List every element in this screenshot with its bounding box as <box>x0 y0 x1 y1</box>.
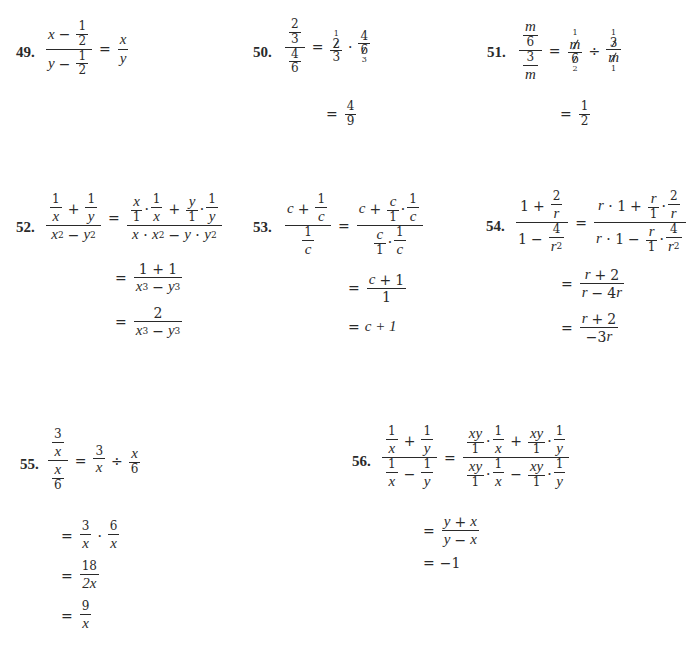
step1-fraction: xy1 · 1x + xy1 · 1y xy1 · 1x − xy1 · 1y <box>463 425 570 490</box>
step1-fraction: x1 · 1x + y1 · 1y x · x2−y · y2 <box>127 193 222 243</box>
lhs-complex-fraction: 23 46 <box>285 18 305 76</box>
cancelled-fraction: 4 63 <box>358 30 370 65</box>
lhs-fraction: 1+2r 1−4r2 <box>516 190 568 255</box>
lhs-fraction: 1x + 1y 1x − 1y <box>382 425 437 490</box>
problem-number: 50. <box>253 44 272 61</box>
problem-number: 54. <box>486 218 505 235</box>
step2-fraction: r+2r−4r <box>580 266 624 302</box>
step3-fraction: r+2−3r <box>580 310 619 346</box>
step1-fraction: r · 1+ r1 · 2r r · 1− r1 · 4r2 <box>594 190 686 255</box>
step2-fraction: y+xy−x <box>442 513 479 549</box>
step1-fraction: c+ c1 · 1c c1 · 1c <box>357 193 423 258</box>
step3-result: −1 <box>440 555 461 571</box>
step2-fraction: 1 + 1x3−y3 <box>134 261 183 295</box>
problem-number: 53. <box>253 219 272 236</box>
step3-fraction: 2x3−y3 <box>134 305 183 339</box>
rhs-fraction: xy <box>118 31 129 67</box>
problem-number: 55. <box>20 456 39 473</box>
problem-number: 56. <box>352 453 371 470</box>
result-fraction: 12 <box>579 100 591 129</box>
result-fraction: 49 <box>345 100 357 129</box>
lhs-fraction: x− 12 y− 12 <box>46 20 92 78</box>
step2-fraction: c+11 <box>367 271 406 305</box>
problem-number: 49. <box>16 44 35 61</box>
cancelled-fraction: 12 3 <box>330 30 342 65</box>
problem-number: 51. <box>487 44 506 61</box>
lhs-complex-fraction: m6 3m <box>519 18 542 83</box>
lhs-complex-fraction: 3x x6 <box>48 428 68 493</box>
lhs-fraction: 1x + 1y x2−y2 <box>46 193 101 243</box>
step3-result: c + 1 <box>365 318 397 335</box>
cancelled-fraction: 13 m1 <box>606 29 621 73</box>
lhs-fraction: c+1c 1c <box>285 193 331 258</box>
cancelled-fraction: 1m 62 <box>568 29 583 73</box>
problem-number: 52. <box>16 219 35 236</box>
